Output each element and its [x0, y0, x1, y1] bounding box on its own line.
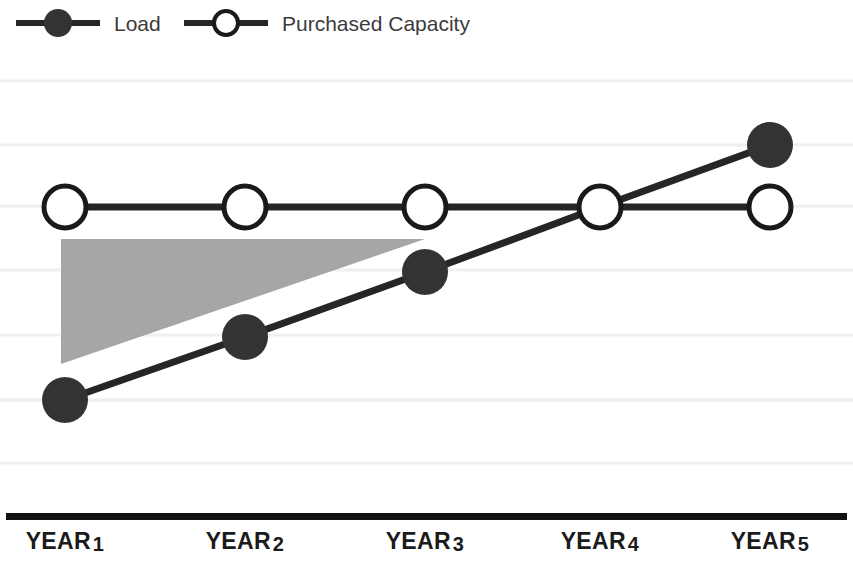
legend-label-load: Load	[114, 13, 161, 34]
x-axis-label-number: 1	[93, 533, 104, 555]
chart-legend: Load Purchased Capacity	[0, 0, 853, 46]
legend-item-purchased-capacity[interactable]: Purchased Capacity	[184, 0, 470, 46]
data-point-purchased-capacity[interactable]	[579, 186, 621, 228]
data-point-purchased-capacity[interactable]	[749, 186, 791, 228]
x-axis-label-5: YEAR5	[731, 528, 810, 554]
x-axis-label-number: 2	[273, 533, 284, 555]
x-axis-label-text: YEAR	[561, 528, 626, 554]
data-point-purchased-capacity[interactable]	[44, 186, 86, 228]
x-axis-line	[6, 513, 847, 520]
data-point-load[interactable]	[402, 249, 448, 295]
x-axis-label-text: YEAR	[206, 528, 271, 554]
chart-svg	[0, 46, 853, 516]
x-axis-label-number: 5	[798, 533, 809, 555]
x-axis-tick-labels: YEAR1YEAR2YEAR3YEAR4YEAR5	[0, 528, 853, 574]
x-axis-label-2: YEAR2	[206, 528, 285, 554]
x-axis-label-text: YEAR	[731, 528, 796, 554]
legend-marker-hollow-circle-icon	[184, 8, 268, 38]
x-axis-label-1: YEAR1	[26, 528, 105, 554]
x-axis-label-number: 4	[628, 533, 639, 555]
data-point-load[interactable]	[222, 314, 268, 360]
plot-area	[0, 46, 853, 516]
data-point-purchased-capacity[interactable]	[404, 186, 446, 228]
data-point-load[interactable]	[747, 122, 793, 168]
x-axis-label-4: YEAR4	[561, 528, 640, 554]
filled-circle-icon	[44, 9, 72, 37]
chart-container: Load Purchased Capacity	[0, 0, 853, 574]
x-axis-label-text: YEAR	[386, 528, 451, 554]
x-axis-label-text: YEAR	[26, 528, 91, 554]
legend-marker-filled-circle-icon	[16, 8, 100, 38]
legend-item-load[interactable]: Load	[16, 0, 161, 46]
x-axis-label-number: 3	[453, 533, 464, 555]
legend-label-purchased-capacity: Purchased Capacity	[282, 13, 470, 34]
data-point-load[interactable]	[42, 377, 88, 423]
x-axis-label-3: YEAR3	[386, 528, 465, 554]
data-point-purchased-capacity[interactable]	[224, 186, 266, 228]
hollow-circle-icon	[212, 9, 240, 37]
